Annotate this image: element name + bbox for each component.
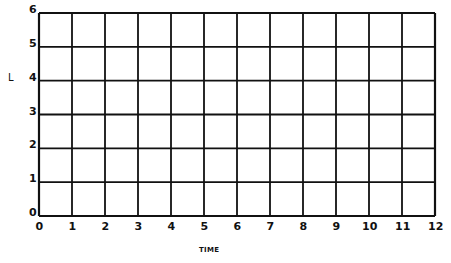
x-tick-label: 8	[300, 221, 307, 232]
x-tick-label: 6	[234, 221, 241, 232]
x-axis-label: TIME	[199, 247, 219, 254]
y-tick-label: 1	[29, 173, 37, 184]
y-tick-label: 3	[29, 106, 37, 117]
x-tick-label: 0	[36, 221, 43, 232]
x-tick-label: 3	[135, 221, 142, 232]
x-tick-label: 4	[168, 221, 175, 232]
y-axis-label: L	[8, 73, 14, 83]
x-tick-label: 2	[102, 221, 109, 232]
y-tick-label: 6	[29, 4, 37, 15]
x-tick-label: 10	[362, 221, 376, 232]
y-tick-label: 4	[29, 72, 37, 83]
x-tick-label: 1	[69, 221, 76, 232]
grid-lines	[39, 13, 435, 216]
x-tick-label: 11	[395, 221, 409, 232]
x-tick-label: 7	[267, 221, 274, 232]
x-tick-label: 9	[333, 221, 340, 232]
y-tick-label: 0	[29, 207, 37, 218]
x-tick-label: 12	[428, 221, 442, 232]
y-tick-label: 5	[29, 38, 37, 49]
x-tick-label: 5	[201, 221, 208, 232]
y-tick-label: 2	[29, 139, 37, 150]
